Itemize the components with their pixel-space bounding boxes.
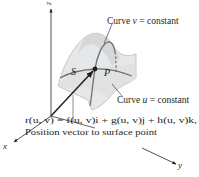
surface-label: S <box>71 66 76 77</box>
parametric-surface-diagram: z x y S P Curve v = constant Curve u = c… <box>0 0 199 177</box>
curve-u-label: Curve u = constant <box>117 95 189 105</box>
y-axis-far <box>142 148 176 164</box>
position-vector-equation: r(u, v) = f(u, v)i + g(u, v)j + h(u, v)k… <box>25 115 197 125</box>
z-axis-label: z <box>45 1 54 6</box>
point-p-dot <box>93 67 98 72</box>
x-axis-label: x <box>2 141 7 151</box>
position-vector-caption: Position vector to surface point <box>25 127 158 137</box>
point-label: P <box>103 67 110 78</box>
y-axis-label: y <box>177 160 182 170</box>
curve-v-label: Curve v = constant <box>107 16 179 26</box>
